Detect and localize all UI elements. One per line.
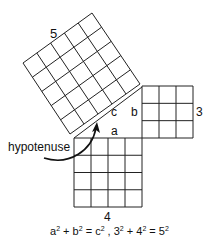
side-b-square <box>142 86 193 138</box>
hypotenuse-square <box>23 13 140 134</box>
label-side-4: 4 <box>104 211 111 223</box>
formula-part: = 5 <box>146 225 165 237</box>
label-side-5: 5 <box>50 27 57 40</box>
hypotenuse-callout: hypotenuse <box>8 141 70 153</box>
side-a-square <box>74 138 142 207</box>
label-b: b <box>131 106 138 118</box>
formula-part: , 3 <box>105 225 120 237</box>
formula-part: + 4 <box>124 225 143 237</box>
formula: a2 + b2 = c2 , 32 + 42 = 52 <box>50 225 169 237</box>
label-a: a <box>111 125 118 137</box>
formula-part: + b <box>60 225 79 237</box>
formula-part: = c <box>83 225 101 237</box>
formula-exp: 2 <box>165 225 169 232</box>
label-c: c <box>111 106 117 118</box>
label-side-3: 3 <box>196 106 203 118</box>
unit-grids <box>23 13 193 207</box>
